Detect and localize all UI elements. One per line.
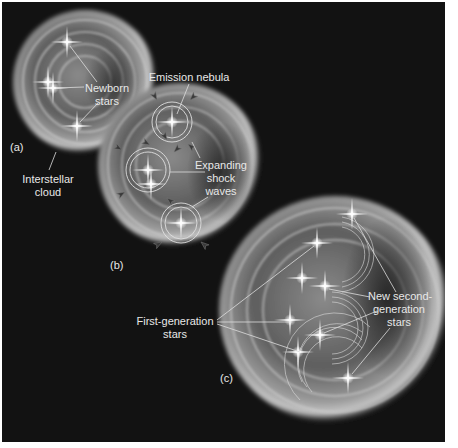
- panel-label-a: (a): [10, 141, 23, 154]
- newborn-stars-line2: stars: [82, 95, 132, 108]
- second-generation-stars-line2: generation: [368, 303, 430, 316]
- expanding-shock-waves-line3: waves: [195, 185, 247, 198]
- panel-label-b: (b): [110, 259, 123, 272]
- interstellar-cloud-line1: Interstellar: [20, 173, 76, 186]
- first-generation-stars-line2: stars: [135, 328, 215, 341]
- first-generation-stars-label: First-generation stars: [135, 315, 215, 341]
- expanding-shock-waves-line2: shock: [195, 172, 247, 185]
- panel-label-c: (c): [220, 372, 233, 385]
- newborn-stars-line1: Newborn: [82, 82, 132, 95]
- newborn-stars-label: Newborn stars: [82, 82, 132, 108]
- interstellar-cloud-line2: cloud: [20, 186, 76, 199]
- second-generation-stars-label: New second- generation stars: [368, 290, 430, 329]
- emission-nebula-label: Emission nebula: [148, 71, 230, 84]
- star-formation-diagram: (a) (b) (c) Newborn stars Interstellar c…: [2, 2, 445, 442]
- interstellar-cloud-label: Interstellar cloud: [20, 173, 76, 199]
- second-generation-stars-line1: New second-: [368, 290, 430, 303]
- second-generation-stars-line3: stars: [368, 316, 430, 329]
- expanding-shock-waves-label: Expanding shock waves: [195, 159, 247, 198]
- expanding-shock-waves-line1: Expanding: [195, 159, 247, 172]
- first-generation-stars-line1: First-generation: [135, 315, 215, 328]
